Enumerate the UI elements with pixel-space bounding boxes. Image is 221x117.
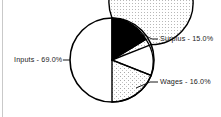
pie-slice-wages[interactable] — [112, 60, 151, 102]
pie-label-wages: Wages - 16.0% — [160, 78, 211, 85]
pie-label-surplus: Surplus - 15.0% — [160, 35, 213, 42]
pie-chart-figure: Surplus - 15.0% Wages - 16.0% Inputs - 6… — [0, 0, 221, 117]
pie-label-inputs: Inputs - 69.0% — [14, 56, 62, 63]
